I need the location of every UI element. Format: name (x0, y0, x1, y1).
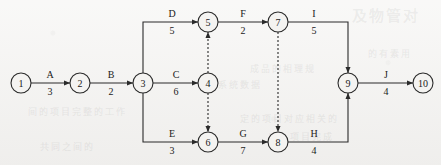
activity-name-G: G (239, 128, 246, 139)
event-node-label: 8 (276, 137, 281, 148)
activity-edge-H (288, 93, 348, 142)
activity-duration-A: 3 (48, 86, 53, 97)
activity-duration-F: 2 (241, 25, 246, 36)
event-node-label: 2 (78, 78, 83, 89)
activity-name-E: E (169, 128, 175, 139)
event-node-label: 6 (206, 137, 211, 148)
activity-duration-D: 5 (170, 25, 175, 36)
activity-name-I: I (312, 8, 315, 19)
event-node-5[interactable]: 5 (198, 12, 218, 32)
activity-name-A: A (46, 69, 54, 80)
activity-name-H: H (310, 128, 317, 139)
activity-duration-H: 4 (312, 145, 317, 156)
event-node-label: 9 (346, 78, 351, 89)
event-node-label: 5 (206, 17, 211, 28)
event-node-1[interactable]: 1 (11, 73, 31, 93)
event-node-3[interactable]: 3 (133, 73, 153, 93)
event-node-label: 4 (206, 78, 211, 89)
event-node-label: 7 (276, 17, 281, 28)
event-node-6[interactable]: 6 (198, 132, 218, 152)
activity-duration-I: 5 (312, 25, 317, 36)
event-node-label: 3 (141, 78, 146, 89)
activity-name-J: J (384, 69, 388, 80)
nodes-layer: 12345678910 (11, 12, 433, 152)
event-node-9[interactable]: 9 (338, 73, 358, 93)
event-node-4[interactable]: 4 (198, 73, 218, 93)
activity-name-C: C (173, 69, 180, 80)
activity-edge-I (288, 22, 348, 73)
activity-duration-G: 7 (241, 145, 246, 156)
event-node-2[interactable]: 2 (70, 73, 90, 93)
event-node-10[interactable]: 10 (413, 73, 433, 93)
activity-name-B: B (108, 69, 115, 80)
activity-duration-B: 2 (109, 86, 114, 97)
event-node-label: 1 (19, 78, 24, 89)
event-node-7[interactable]: 7 (268, 12, 288, 32)
activity-duration-C: 6 (174, 86, 179, 97)
event-node-8[interactable]: 8 (268, 132, 288, 152)
event-node-label: 10 (418, 78, 428, 89)
activity-name-F: F (240, 8, 246, 19)
activity-duration-J: 4 (384, 86, 389, 97)
activity-name-D: D (168, 8, 175, 19)
network-diagram-canvas: 及物管对的有素用成品的相理规系统数据间的项目完整的工作定的项目对应相关的以上项目… (0, 0, 441, 165)
activity-duration-E: 3 (170, 145, 175, 156)
network-diagram-svg: 12345678910 A3B2C6D5E3F2G7H4I5J4 (0, 0, 441, 165)
